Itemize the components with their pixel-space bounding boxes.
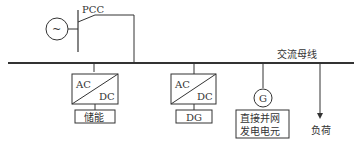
generator-label-line2: 发电电元 [240, 125, 280, 137]
dg-label: DG [186, 112, 202, 123]
generator-symbol: G [259, 93, 267, 104]
generator-label-line1: 直接并网 [240, 112, 280, 124]
load-arrowhead-icon [317, 113, 323, 119]
microgrid-diagram: PCC ~ 交流母线 AC DC 储能 AC DC DG G 直接并网 发电电元… [0, 0, 354, 143]
load-label: 负荷 [311, 124, 331, 136]
converter2-dc: DC [197, 91, 213, 102]
converter2-ac: AC [174, 79, 190, 90]
grid-source-symbol: ~ [52, 23, 61, 36]
pcc-switch-icon [78, 15, 95, 22]
storage-label: 储能 [84, 111, 104, 123]
converter1-ac: AC [75, 79, 91, 90]
converter1-dc: DC [99, 91, 115, 102]
pcc-label: PCC [82, 4, 104, 15]
bus-label: 交流母线 [277, 48, 317, 60]
